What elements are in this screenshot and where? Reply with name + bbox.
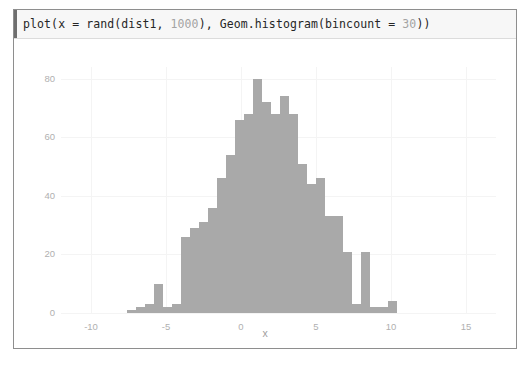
histogram-bar [298,164,307,313]
histogram-bar [199,222,208,313]
code-token-0: plot( [23,17,58,31]
gridline-vertical-4 [391,67,392,313]
histogram-bar [262,102,271,313]
code-token-1: x = rand(dist1, [58,17,170,31]
y-tick-label: 60 [21,132,55,142]
y-tick-label: 80 [21,74,55,84]
histogram-bar [334,216,343,313]
histogram-bar [190,228,199,313]
histogram-bar [271,114,280,313]
plot-data-area [61,67,496,313]
y-tick-label: 20 [21,249,55,259]
histogram-bar [307,184,316,313]
histogram-bar [235,120,244,313]
plot-output-area: 020406080 -10-5051015 x [14,40,516,348]
histogram-bar [280,96,289,313]
histogram-bar [325,216,334,313]
notebook-cell: plot(x = rand(dist1, 1000), Geom.histogr… [13,9,517,349]
histogram-bar [172,304,181,313]
histogram-bar [244,114,253,313]
gridline-vertical-0 [91,67,92,313]
histogram-bar [379,307,388,313]
histogram-bar [208,208,217,313]
histogram-canvas [61,67,496,313]
code-token-5: )) [416,17,430,31]
histogram-bar [136,307,145,313]
histogram-bar [127,310,136,313]
histogram-bar [154,284,163,313]
y-tick-label: 40 [21,191,55,201]
y-tick-label: 0 [21,308,55,318]
histogram-bar [343,252,352,314]
histogram-bar [289,114,298,313]
histogram-bar [217,178,226,313]
code-token-2: 1000 [171,17,199,31]
histogram-bar [370,307,379,313]
gridline-horizontal-0 [61,313,496,314]
histogram-bar [316,178,325,313]
code-token-3: ), Geom.histogram(bincount = [199,17,403,31]
histogram-bar [352,304,361,313]
x-axis-title: x [14,327,516,339]
histogram-bar [361,252,370,314]
histogram-bar [145,304,154,313]
gridline-horizontal-4 [61,79,496,80]
gridline-vertical-5 [466,67,467,313]
histogram-bar [226,155,235,313]
gridline-vertical-1 [166,67,167,313]
histogram-bar [163,307,172,313]
code-cell-gutter-bar [14,10,17,39]
code-input-text[interactable]: plot(x = rand(dist1, 1000), Geom.histogr… [23,16,430,33]
histogram-bar [181,237,190,313]
histogram-bar [253,79,262,313]
histogram-bar [388,301,397,313]
code-token-4: 30 [402,17,416,31]
code-input-block[interactable]: plot(x = rand(dist1, 1000), Geom.histogr… [14,10,516,39]
